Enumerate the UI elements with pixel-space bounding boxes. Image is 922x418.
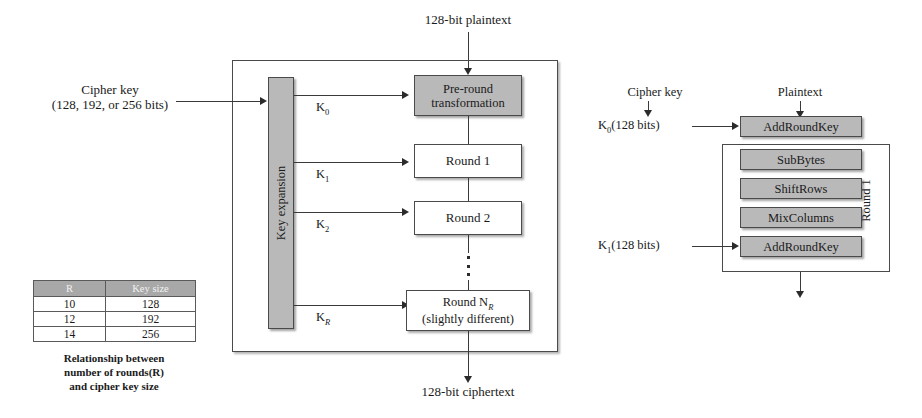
connector-r2-dots bbox=[468, 235, 469, 253]
round-2-label: Round 2 bbox=[446, 211, 490, 226]
ciphertext-arrow-line bbox=[468, 331, 469, 379]
ellipsis-dot bbox=[467, 265, 470, 268]
table-cell-keysize: 128 bbox=[106, 297, 196, 312]
table-cell-keysize: 192 bbox=[106, 312, 196, 327]
addroundkey-round1-box: AddRoundKey bbox=[740, 236, 862, 257]
table-caption-line3: and cipher key size bbox=[18, 380, 210, 394]
ciphertext-label-left: 128-bit ciphertext bbox=[388, 384, 548, 399]
pre-round-transformation-box: Pre-round transformation bbox=[414, 75, 522, 116]
k1-right-line bbox=[692, 246, 734, 247]
aes-cipher-diagram: 128-bit plaintext Cipher key (128, 192, … bbox=[0, 0, 922, 418]
k2-label: K2 bbox=[316, 217, 376, 234]
addroundkey-pre-box: AddRoundKey bbox=[740, 116, 862, 137]
ellipsis-dot bbox=[467, 273, 470, 276]
cipher-key-label-left: Cipher key (128, 192, or 256 bits) bbox=[10, 82, 210, 113]
connector-prr-r1 bbox=[468, 116, 469, 144]
kr-subscript: R bbox=[325, 317, 330, 327]
table-cell-r: 12 bbox=[34, 312, 106, 327]
ellipsis-dot bbox=[467, 256, 470, 259]
round-2-box: Round 2 bbox=[414, 201, 522, 235]
cipher-key-label-right: Cipher key bbox=[600, 85, 710, 100]
k0-subscript: 0 bbox=[325, 107, 329, 117]
addroundkey-round1-label: AddRoundKey bbox=[763, 240, 839, 254]
cipher-key-line1: Cipher key bbox=[10, 82, 210, 97]
table-cell-r: 10 bbox=[34, 297, 106, 312]
k2-line bbox=[294, 212, 404, 213]
rounds-keysize-table-wrap: R Key size 10 128 12 192 14 256 bbox=[33, 280, 196, 342]
cipher-key-line2: (128, 192, or 256 bits) bbox=[10, 97, 210, 112]
connector-r1-r2 bbox=[468, 178, 469, 201]
k0-line bbox=[294, 95, 404, 96]
k2-arrow-head bbox=[402, 208, 409, 216]
table-header-r: R bbox=[34, 281, 106, 297]
table-cell-keysize: 256 bbox=[106, 327, 196, 342]
table-row: 12 192 bbox=[34, 312, 196, 327]
pre-round-line1: Pre-round bbox=[431, 82, 505, 96]
plaintext-label-right: Plaintext bbox=[745, 85, 855, 100]
round-1-label: Round 1 bbox=[446, 154, 490, 169]
k0-right-arrow-head bbox=[732, 122, 739, 130]
mixcolumns-box: MixColumns bbox=[740, 207, 862, 228]
k0-arrow-head bbox=[402, 91, 409, 99]
round-n-line1: Round NR bbox=[422, 295, 514, 312]
k1-line bbox=[294, 162, 404, 163]
cipher-key-arrow-head bbox=[260, 97, 267, 105]
key-expansion-box: Key expansion bbox=[268, 77, 294, 329]
connector-dots-rn bbox=[468, 280, 469, 290]
pre-round-line2: transformation bbox=[431, 96, 505, 110]
round-n-line2: (slightly different) bbox=[422, 312, 514, 326]
table-cell-r: 14 bbox=[34, 327, 106, 342]
shiftrows-label: ShiftRows bbox=[775, 182, 828, 196]
shiftrows-box: ShiftRows bbox=[740, 178, 862, 199]
k0-right-line bbox=[692, 126, 734, 127]
cipher-key-arrow-line bbox=[176, 101, 262, 102]
mixcolumns-label: MixColumns bbox=[768, 211, 834, 225]
k0-label: K0 bbox=[316, 100, 376, 117]
table-caption-line2: number of rounds(R) bbox=[18, 366, 210, 380]
k1-subscript: 1 bbox=[325, 174, 329, 184]
ciphertext-arrow-head bbox=[464, 376, 472, 383]
plaintext-label-left: 128-bit plaintext bbox=[388, 12, 548, 27]
table-header-row: R Key size bbox=[34, 281, 196, 297]
subbytes-label: SubBytes bbox=[777, 153, 825, 167]
round-1-box: Round 1 bbox=[414, 144, 522, 178]
table-caption: Relationship between number of rounds(R)… bbox=[18, 352, 210, 393]
kr-line bbox=[294, 305, 404, 306]
k1-right-arrow-head bbox=[732, 242, 739, 250]
k1-right-subscript: 1 bbox=[607, 245, 611, 255]
table-header-keysize: Key size bbox=[106, 281, 196, 297]
k1-label: K1 bbox=[316, 167, 376, 184]
table-row: 10 128 bbox=[34, 297, 196, 312]
subbytes-box: SubBytes bbox=[740, 149, 862, 170]
addroundkey-pre-label: AddRoundKey bbox=[763, 120, 839, 134]
k2-subscript: 2 bbox=[325, 224, 329, 234]
right-output-arrow-head bbox=[796, 291, 804, 298]
k0-right-subscript: 0 bbox=[607, 125, 611, 135]
round-n-box: Round NR (slightly different) bbox=[406, 290, 530, 331]
table-caption-line1: Relationship between bbox=[18, 352, 210, 366]
rounds-keysize-table: R Key size 10 128 12 192 14 256 bbox=[33, 280, 196, 342]
k1-arrow-head bbox=[402, 158, 409, 166]
kr-label: KR bbox=[316, 310, 376, 327]
vertical-ellipsis bbox=[467, 256, 470, 276]
table-row: 14 256 bbox=[34, 327, 196, 342]
key-expansion-label: Key expansion bbox=[274, 166, 288, 241]
cipher-key-right-arrow-head bbox=[644, 110, 652, 117]
